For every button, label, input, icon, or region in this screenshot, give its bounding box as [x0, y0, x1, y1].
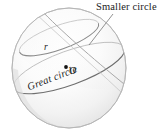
center-label: O	[69, 66, 76, 76]
sphere-figure: Smaller circle Great circle r O	[0, 0, 164, 137]
radius-label: r	[44, 43, 48, 53]
smaller-circle-label: Smaller circle	[96, 2, 157, 13]
sphere-diagram-canvas	[0, 0, 164, 137]
